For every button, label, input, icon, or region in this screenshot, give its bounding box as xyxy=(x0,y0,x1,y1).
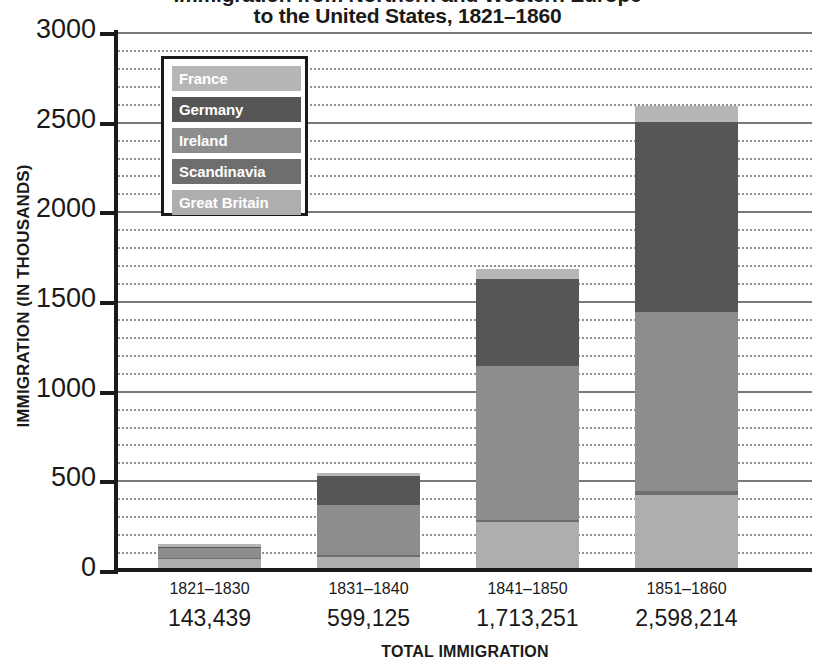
legend-label: Great Britain xyxy=(172,194,269,211)
bar-1821-1830[interactable] xyxy=(158,544,261,570)
bar-segment-great-britain[interactable] xyxy=(635,495,738,570)
legend-box: FranceGermanyIrelandScandinaviaGreat Bri… xyxy=(161,56,308,216)
bar-segment-ireland[interactable] xyxy=(635,312,738,491)
y-tick-label: 1500 xyxy=(0,285,96,312)
bar-segment-germany[interactable] xyxy=(158,546,261,548)
gridline-minor xyxy=(118,50,812,52)
total-immigration-value: 2,598,214 xyxy=(597,605,777,632)
category-label: 1831–1840 xyxy=(279,580,459,598)
bar-segment-ireland[interactable] xyxy=(317,505,420,555)
bar-segment-france[interactable] xyxy=(476,269,579,280)
legend-label: Ireland xyxy=(172,132,227,149)
total-immigration-value: 1,713,251 xyxy=(438,605,618,632)
total-immigration-value: 143,439 xyxy=(120,605,300,632)
y-tick-mark xyxy=(100,391,118,395)
y-tick-label: 1000 xyxy=(0,375,96,402)
legend-label: Germany xyxy=(172,101,243,118)
bar-segment-france[interactable] xyxy=(158,544,261,546)
gridline-major xyxy=(118,32,812,34)
legend-label: Scandinavia xyxy=(172,163,265,180)
legend-label: France xyxy=(172,70,228,87)
y-tick-mark xyxy=(100,122,118,126)
y-tick-label: 2500 xyxy=(0,106,96,133)
bar-1841-1850[interactable] xyxy=(476,269,579,570)
y-tick-label: 0 xyxy=(0,554,96,581)
y-tick-label: 500 xyxy=(0,464,96,491)
bar-segment-france[interactable] xyxy=(635,106,738,122)
bar-segment-scandinavia[interactable] xyxy=(317,555,420,557)
bar-segment-scandinavia[interactable] xyxy=(476,520,579,523)
bar-segment-germany[interactable] xyxy=(635,122,738,312)
category-label: 1841–1850 xyxy=(438,580,618,598)
legend-item-scandinavia[interactable]: Scandinavia xyxy=(172,159,297,184)
y-tick-mark xyxy=(100,570,118,574)
legend-item-germany[interactable]: Germany xyxy=(172,97,297,122)
y-tick-mark xyxy=(100,480,118,484)
chart-title: Immigration from Northern and Western Eu… xyxy=(0,0,815,26)
total-immigration-value: 599,125 xyxy=(279,605,459,632)
x-axis-title: TOTAL IMMIGRATION xyxy=(118,643,812,661)
y-tick-label: 2000 xyxy=(0,195,96,222)
category-label: 1821–1830 xyxy=(120,580,300,598)
y-tick-mark xyxy=(100,301,118,305)
immigration-stacked-bar-chart: Immigration from Northern and Western Eu… xyxy=(0,0,815,670)
legend-item-france[interactable]: France xyxy=(172,66,297,91)
x-axis-line xyxy=(114,568,812,572)
legend-item-great-britain[interactable]: Great Britain xyxy=(172,190,297,215)
bar-segment-germany[interactable] xyxy=(476,279,579,365)
bar-segment-scandinavia[interactable] xyxy=(635,491,738,495)
bar-segment-ireland[interactable] xyxy=(476,366,579,520)
bar-segment-germany[interactable] xyxy=(317,476,420,505)
y-tick-mark xyxy=(100,32,118,36)
chart-title-line-2: to the United States, 1821–1860 xyxy=(0,5,815,26)
category-label: 1851–1860 xyxy=(597,580,777,598)
bar-1851-1860[interactable] xyxy=(635,106,738,570)
bar-segment-ireland[interactable] xyxy=(158,548,261,558)
bar-segment-great-britain[interactable] xyxy=(476,522,579,570)
bar-segment-france[interactable] xyxy=(317,473,420,476)
bar-1831-1840[interactable] xyxy=(317,473,420,570)
y-tick-label: 3000 xyxy=(0,16,96,43)
y-tick-mark xyxy=(100,211,118,215)
legend-item-ireland[interactable]: Ireland xyxy=(172,128,297,153)
